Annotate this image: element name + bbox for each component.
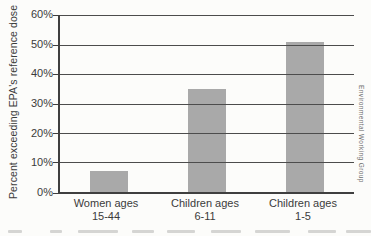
plot-area bbox=[58, 15, 354, 194]
axis-tick-20 bbox=[53, 133, 60, 134]
category-label-line2: 1-5 bbox=[248, 210, 358, 223]
y-tick-label-60: 60% bbox=[24, 8, 53, 21]
gridline-10 bbox=[60, 162, 354, 163]
x-category-label-children-1-5: Children ages 1-5 bbox=[248, 197, 358, 223]
category-label-line1: Women ages bbox=[51, 197, 161, 210]
y-tick-label-30: 30% bbox=[24, 97, 53, 110]
clipped-caption-remnant bbox=[8, 230, 371, 234]
gridline-60 bbox=[60, 15, 354, 16]
axis-tick-50 bbox=[53, 45, 60, 46]
axis-tick-40 bbox=[53, 74, 60, 75]
y-tick-label-10: 10% bbox=[24, 156, 53, 169]
category-label-line2: 6-11 bbox=[150, 210, 260, 223]
bar-women-ages-15-44 bbox=[90, 171, 128, 192]
gridline-50 bbox=[60, 45, 354, 46]
category-label-line2: 15-44 bbox=[51, 210, 161, 223]
y-tick-label-0: 0% bbox=[24, 186, 53, 199]
gridline-20 bbox=[60, 133, 354, 134]
source-credit-vertical: Environmental Working Group bbox=[358, 85, 365, 215]
y-tick-label-40: 40% bbox=[24, 67, 53, 80]
axis-tick-60 bbox=[53, 15, 60, 16]
axis-tick-10 bbox=[53, 162, 60, 163]
y-axis-title: Percent exceeding EPA's reference dose bbox=[7, 9, 21, 199]
bar-children-ages-1-5 bbox=[286, 42, 324, 192]
x-category-label-children-6-11: Children ages 6-11 bbox=[150, 197, 260, 223]
axis-tick-30 bbox=[53, 104, 60, 105]
gridline-40 bbox=[60, 74, 354, 75]
category-label-line1: Children ages bbox=[150, 197, 260, 210]
category-label-line1: Children ages bbox=[248, 197, 358, 210]
y-tick-label-20: 20% bbox=[24, 127, 53, 140]
y-tick-label-50: 50% bbox=[24, 38, 53, 51]
bar-chart: Percent exceeding EPA's reference dose 6… bbox=[0, 0, 371, 236]
axis-tick-0 bbox=[53, 193, 60, 194]
x-category-label-women-15-44: Women ages 15-44 bbox=[51, 197, 161, 223]
gridline-30 bbox=[60, 104, 354, 105]
